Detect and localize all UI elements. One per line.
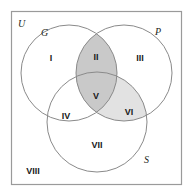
- set-label-S: S: [144, 154, 149, 165]
- region-label-II: II: [93, 52, 98, 62]
- region-label-I: I: [50, 53, 53, 63]
- region-label-IV: IV: [62, 111, 71, 121]
- region-label-V: V: [93, 91, 99, 101]
- region-label-VI: VI: [125, 107, 134, 117]
- venn-diagram-container: U G P S I II III IV V VI VII VIII: [0, 0, 195, 196]
- set-label-G: G: [41, 27, 48, 38]
- region-label-III: III: [136, 53, 144, 63]
- region-label-VII: VII: [91, 140, 102, 150]
- region-label-VIII: VIII: [26, 166, 40, 176]
- universal-set-label: U: [18, 18, 26, 29]
- set-label-P: P: [154, 26, 161, 37]
- venn-diagram-svg: U G P S I II III IV V VI VII VIII: [0, 0, 195, 196]
